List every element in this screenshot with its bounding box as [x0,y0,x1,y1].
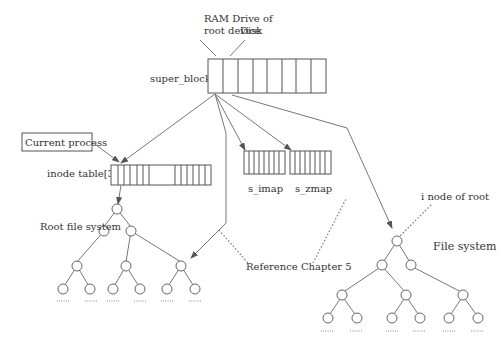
sb-to-inode-arrow [121,94,215,163]
root-file-system-tree [57,185,202,301]
inode-table-array [111,165,211,185]
reference-dotted-left [219,230,248,263]
inode-of-root-label: i node of root [421,191,489,202]
s-imap-label: s_imap [248,183,283,195]
file-system-label: File system [433,240,497,253]
current-process-box: Current process [22,133,107,151]
ram-drive-pointer [200,40,216,56]
s-zmap-array [290,151,331,174]
sb-to-imap-arrow [215,94,245,150]
file-system-diagram: RAM Drive of root device Disk super_bloc… [0,0,504,351]
s-zmap-label: s_zmap [295,183,332,195]
super-block-array [208,59,326,93]
disk-pointer [230,40,245,56]
ram-drive-label: RAM Drive of [204,13,274,24]
current-process-label: Current process [25,137,107,148]
reference-label: Reference Chapter 5 [246,261,352,272]
disk-label: Disk [240,25,263,36]
inode-of-root-pointer [398,205,431,238]
s-imap-array [244,151,285,174]
reference-dotted-right [313,199,346,263]
root-file-system-label: Root file system [40,221,122,232]
